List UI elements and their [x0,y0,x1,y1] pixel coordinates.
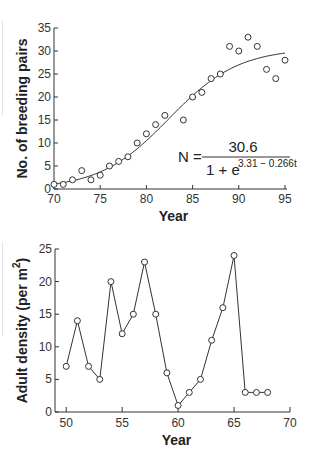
x-tick-label: 70 [283,416,297,430]
y-tick-label: 5 [45,372,52,386]
data-point [74,318,80,324]
y-axis-label: Adult density (per m2) [11,258,30,404]
y-tick-label: 15 [39,307,53,321]
data-point [242,389,248,395]
data-point [130,311,136,317]
density-line [66,256,267,406]
data-point [186,389,192,395]
data-point [209,337,215,343]
y-tick-label: 0 [45,405,52,419]
data-point [175,402,181,408]
data-point [108,279,114,285]
x-axis-label: Year [162,432,192,448]
x-tick-label: 65 [227,416,241,430]
data-point [231,253,237,259]
data-point [63,363,69,369]
adult-density-chart: 05101520255055606570YearAdult density (p… [0,0,310,466]
data-point [253,389,259,395]
data-point [119,331,125,337]
x-tick-label: 60 [171,416,185,430]
data-point [86,363,92,369]
data-point [220,305,226,311]
data-point [153,311,159,317]
x-tick-label: 55 [115,416,129,430]
data-point [164,370,170,376]
data-point [265,389,271,395]
y-tick-label: 25 [39,242,53,256]
x-tick-label: 50 [60,416,74,430]
data-point [97,376,103,382]
y-tick-label: 20 [39,275,53,289]
data-point [197,376,203,382]
data-point [142,259,148,265]
y-tick-label: 10 [39,340,53,354]
